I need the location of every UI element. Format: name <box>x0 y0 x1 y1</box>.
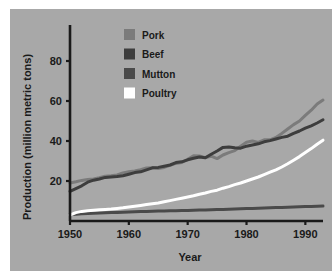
legend-label-poultry: Poultry <box>142 88 177 99</box>
chart-legend: PorkBeefMuttonPoultry <box>124 29 177 99</box>
legend-label-pork: Pork <box>142 30 165 41</box>
x-axis-tick-label: 1990 <box>293 228 317 240</box>
legend-swatch-poultry <box>124 88 135 99</box>
legend-item-pork: Pork <box>124 29 165 41</box>
legend-item-poultry: Poultry <box>124 88 177 100</box>
x-axis-tick-label: 1950 <box>58 228 82 240</box>
x-axis-tick-label: 1970 <box>175 228 199 240</box>
series-layer <box>70 100 323 215</box>
series-line-pork <box>70 100 323 183</box>
y-axis-tick-label: 40 <box>50 135 62 147</box>
x-axis-tick-label: 1960 <box>117 228 141 240</box>
legend-swatch-beef <box>124 49 135 60</box>
legend-label-beef: Beef <box>142 49 164 60</box>
y-axis-tick-label: 60 <box>50 95 62 107</box>
x-axis-tick-label: 1980 <box>234 228 258 240</box>
legend-swatch-mutton <box>124 68 135 79</box>
y-axis-tick-label: 20 <box>50 175 62 187</box>
legend-label-mutton: Mutton <box>142 69 175 80</box>
legend-item-mutton: Mutton <box>124 68 175 80</box>
y-axis-tick-label: 80 <box>50 55 62 67</box>
x-axis-title: Year <box>178 251 202 263</box>
line-chart: 2040608019501960197019801990 PorkBeefMut… <box>10 9 332 271</box>
y-axis-title: Production (million metric tons) <box>21 54 33 221</box>
chart-figure: 2040608019501960197019801990 PorkBeefMut… <box>0 0 332 277</box>
legend-swatch-pork <box>124 29 135 40</box>
chart-panel: 2040608019501960197019801990 PorkBeefMut… <box>10 9 332 271</box>
legend-item-beef: Beef <box>124 49 164 61</box>
